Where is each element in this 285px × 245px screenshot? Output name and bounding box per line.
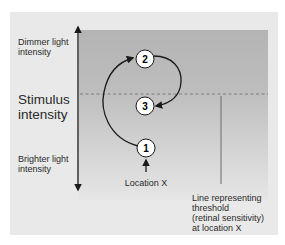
brighter-label: Brighter light intensity bbox=[18, 155, 76, 175]
location-label: Location X bbox=[120, 179, 172, 189]
threshold-annotation-line-4: at location X bbox=[192, 224, 278, 234]
dimmer-label: Dimmer light intensity bbox=[18, 38, 74, 58]
axis-title: Stimulus intensity bbox=[18, 92, 76, 122]
step-2-circle: 2 bbox=[136, 50, 154, 68]
stimulus-region bbox=[79, 30, 268, 200]
step-3-label: 3 bbox=[142, 101, 148, 112]
threshold-annotation: Line representing threshold (retinal sen… bbox=[192, 194, 278, 234]
step-1-circle: 1 bbox=[137, 139, 155, 157]
step-1-label: 1 bbox=[143, 143, 149, 154]
step-2-label: 2 bbox=[142, 54, 148, 65]
step-3-circle: 3 bbox=[136, 97, 154, 115]
